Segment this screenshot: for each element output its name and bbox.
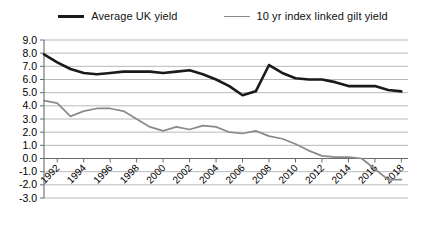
- x-tick-label: 2002: [171, 162, 195, 186]
- y-tick-label: 0.0: [22, 152, 37, 164]
- y-axis-labels: 9.08.07.06.05.04.03.02.01.00.0-1.0-2.0-3…: [19, 34, 37, 204]
- legend-entry-gilt-yield: 10 yr index linked gilt yield: [224, 10, 388, 22]
- x-tick-label: 2010: [276, 162, 300, 186]
- legend-swatch-average-uk-yield: [58, 15, 84, 18]
- y-tick-label: 4.0: [22, 99, 37, 111]
- x-tick-label: 2018: [382, 162, 406, 186]
- data-series: [44, 54, 401, 179]
- chart-legend: Average UK yield 10 yr index linked gilt…: [0, 6, 446, 26]
- y-tick-label: 2.0: [22, 126, 37, 138]
- legend-label-gilt-yield: 10 yr index linked gilt yield: [257, 10, 388, 22]
- plot-svg: 9.08.07.06.05.04.03.02.01.00.0-1.0-2.0-3…: [0, 30, 446, 244]
- y-tick-label: 8.0: [22, 47, 37, 59]
- x-tick-label: 2006: [223, 162, 247, 186]
- series-line-average-uk-yield: [44, 54, 401, 95]
- x-tick-label: 1998: [118, 162, 142, 186]
- yield-line-chart: Average UK yield 10 yr index linked gilt…: [0, 0, 446, 244]
- y-tick-label: 3.0: [22, 113, 37, 125]
- x-axis-ticks: [57, 159, 401, 163]
- x-tick-label: 2012: [303, 162, 327, 186]
- x-tick-label: 1992: [38, 162, 62, 186]
- y-tick-label: -2.0: [19, 178, 37, 190]
- x-axis-labels: 1992199419961998200020022004200620082010…: [38, 162, 406, 186]
- x-tick-label: 2008: [250, 162, 274, 186]
- x-tick-label: 2000: [144, 162, 168, 186]
- y-tick-label: 5.0: [22, 86, 37, 98]
- y-tick-label: 1.0: [22, 139, 37, 151]
- x-tick-label: 2014: [329, 162, 353, 186]
- x-tick-label: 2016: [356, 162, 380, 186]
- y-tick-label: 6.0: [22, 73, 37, 85]
- x-tick-label: 2004: [197, 162, 221, 186]
- y-tick-label: -1.0: [19, 165, 37, 177]
- y-tick-label: 7.0: [22, 60, 37, 72]
- plot-area: 9.08.07.06.05.04.03.02.01.00.0-1.0-2.0-3…: [0, 30, 446, 244]
- y-tick-label: 9.0: [22, 34, 37, 46]
- legend-entry-average-uk-yield: Average UK yield: [58, 10, 177, 22]
- x-tick-label: 1994: [65, 162, 89, 186]
- y-tick-label: -3.0: [19, 192, 37, 204]
- legend-label-average-uk-yield: Average UK yield: [91, 10, 177, 22]
- legend-swatch-gilt-yield: [224, 16, 250, 17]
- x-tick-label: 1996: [91, 162, 115, 186]
